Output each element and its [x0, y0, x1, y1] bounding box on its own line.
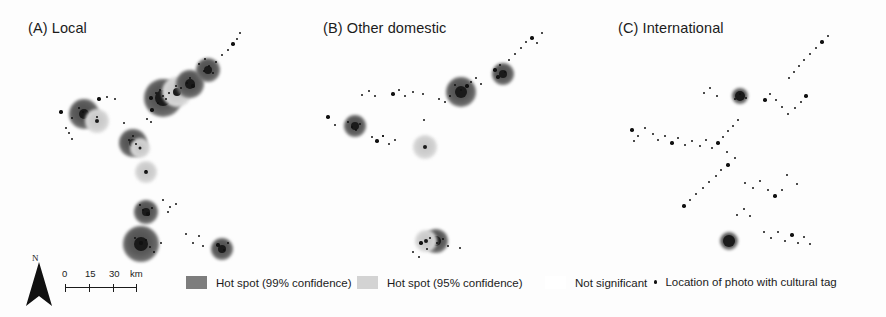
photo-location-point — [691, 140, 693, 142]
photo-location-point — [106, 96, 109, 99]
photo-location-point — [803, 59, 806, 62]
photo-location-point — [525, 41, 528, 44]
photo-location-point — [334, 124, 337, 127]
photo-location-point — [236, 38, 239, 41]
photo-location-point — [716, 95, 719, 98]
photo-location-point — [745, 97, 747, 99]
photo-location-point — [398, 89, 400, 91]
photo-location-point — [157, 102, 159, 104]
photo-location-point — [514, 53, 517, 56]
photo-location-point — [781, 189, 784, 192]
photo-location-point — [192, 242, 195, 245]
photo-location-point — [59, 110, 62, 113]
photo-location-point — [752, 187, 755, 190]
photo-location-point — [191, 84, 194, 87]
photo-location-point — [394, 139, 396, 141]
photo-location-point — [374, 95, 377, 98]
photo-location-point — [508, 59, 511, 62]
photo-location-point — [438, 98, 441, 101]
photo-location-point — [412, 91, 415, 94]
photo-location-point — [185, 233, 188, 236]
photo-location-point — [787, 113, 790, 116]
photo-location-point — [708, 181, 711, 184]
photo-location-point — [71, 138, 74, 141]
photo-location-point — [231, 42, 234, 45]
photo-location-point — [114, 98, 117, 101]
photo-location-point — [221, 54, 224, 57]
photo-location-point — [657, 139, 659, 141]
photo-location-point — [705, 139, 708, 142]
photo-location-point — [798, 65, 800, 67]
photo-location-point — [460, 89, 462, 91]
photo-location-point — [726, 151, 729, 154]
photo-location-point — [644, 127, 647, 130]
photo-location-point — [767, 189, 769, 191]
photo-location-point — [773, 194, 776, 197]
photo-location-point — [412, 251, 415, 254]
photo-location-point — [496, 75, 499, 78]
photo-location-point — [664, 135, 667, 138]
photo-location-point — [375, 139, 378, 142]
panel-international: (C) International — [590, 0, 885, 268]
legend: Hot spot (99% confidence) Hot spot (95% … — [0, 276, 886, 300]
photo-location-point — [480, 83, 483, 86]
photo-location-point — [703, 92, 706, 95]
legend-item-not-significant: Not significant — [545, 276, 647, 289]
panel-other-domestic: (B) Other domestic — [295, 0, 590, 268]
photo-location-point — [797, 242, 800, 245]
photo-location-point — [727, 130, 730, 133]
photo-location-point — [702, 187, 704, 189]
photo-location-point — [759, 180, 762, 183]
photo-location-point — [715, 175, 718, 178]
photo-location-point — [162, 199, 165, 202]
photo-location-point — [326, 115, 329, 118]
photo-location-point — [97, 97, 100, 100]
photo-location-point — [689, 199, 692, 202]
photo-location-point — [150, 108, 153, 111]
photo-location-point — [444, 101, 447, 104]
photo-location-point — [820, 40, 823, 43]
photo-location-point — [744, 182, 747, 185]
legend-label-hot-spot-95: Hot spot (95% confidence) — [387, 277, 523, 289]
photo-location-point — [359, 123, 361, 125]
photo-location-point — [695, 193, 698, 196]
photo-location-point — [227, 49, 230, 52]
photo-location-point — [465, 84, 468, 87]
photo-location-point — [239, 32, 242, 35]
photo-location-point — [423, 119, 426, 122]
photo-location-point — [167, 211, 170, 214]
photo-location-point — [794, 107, 796, 109]
panel-local: (A) Local — [0, 0, 295, 268]
photo-location-point — [475, 77, 478, 80]
photo-location-point — [749, 215, 752, 218]
photo-location-point — [743, 208, 746, 211]
photo-location-point — [790, 233, 793, 236]
hot-spot-core — [139, 147, 142, 150]
photo-location-point — [720, 169, 723, 172]
photo-location-point — [202, 245, 204, 247]
photo-location-point — [784, 240, 787, 243]
photo-location-point — [139, 241, 142, 244]
photo-location-point — [677, 137, 680, 140]
photo-location-point — [418, 256, 420, 258]
hotspot-map-figure: (A) Local (B) Other domestic (C) Interna… — [0, 0, 886, 317]
photo-location-point — [770, 237, 772, 239]
photo-location-point — [736, 214, 739, 217]
hot-spot-core — [95, 119, 99, 123]
photo-location-point — [65, 127, 68, 130]
photo-location-point — [652, 133, 655, 136]
photo-location-point — [198, 235, 201, 238]
photo-location-point — [763, 98, 766, 101]
photo-location-point — [827, 35, 829, 37]
photo-location-point — [422, 93, 425, 96]
legend-swatch-not-significant-icon — [545, 276, 566, 289]
photo-location-point — [68, 132, 70, 134]
photo-location-point — [391, 92, 394, 95]
photo-location-point — [447, 245, 450, 248]
hot-spot-core — [723, 235, 735, 247]
legend-label-hot-spot-99: Hot spot (99% confidence) — [216, 277, 352, 289]
photo-location-point — [722, 136, 724, 138]
photo-location-point — [139, 204, 141, 206]
photo-location-point — [633, 140, 636, 143]
photo-location-point — [493, 68, 496, 71]
